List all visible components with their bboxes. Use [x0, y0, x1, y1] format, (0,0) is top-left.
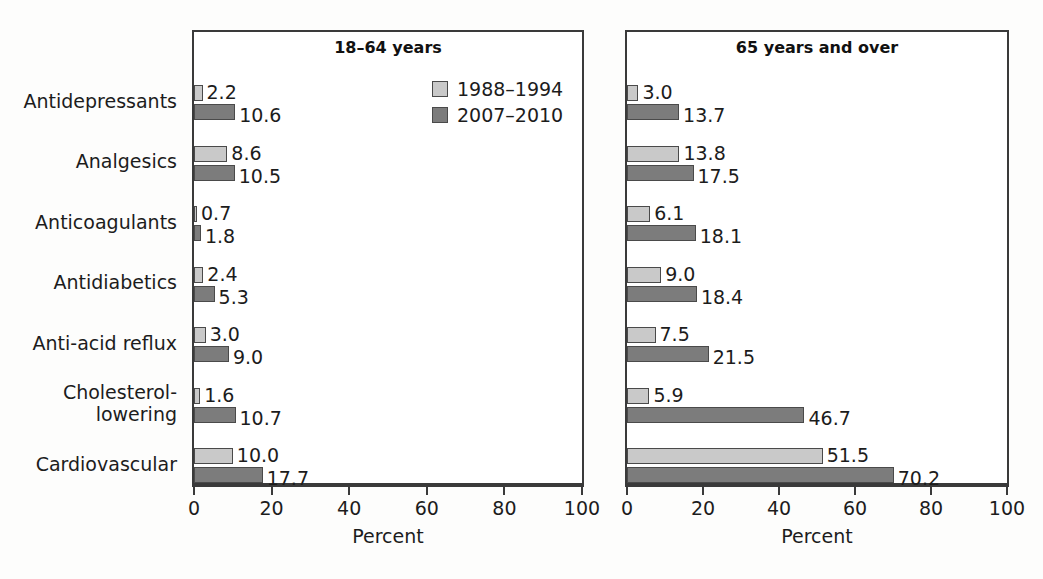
bar-value-label: 13.7: [683, 106, 725, 125]
legend-item: 1988–1994: [432, 76, 563, 102]
bar-value-label: 9.0: [233, 348, 263, 367]
bar-2007-2010: [194, 165, 235, 181]
bar-value-label: 3.0: [642, 83, 672, 102]
axis-tick-label: 80: [492, 498, 516, 518]
axis-title: Percent: [192, 525, 584, 547]
bar-value-label: 21.5: [713, 348, 755, 367]
axis-tick: [581, 485, 583, 495]
category-label: Anticoagulants: [35, 211, 177, 233]
bar-value-label: 13.8: [683, 144, 725, 163]
bar-2007-2010: [627, 165, 694, 181]
bar-value-label: 6.1: [654, 204, 684, 223]
category-label: Antidepressants: [24, 90, 178, 112]
bar-value-label: 8.6: [231, 144, 261, 163]
axis-tick-label: 40: [767, 498, 791, 518]
bar-value-label: 18.4: [701, 288, 743, 307]
axis-tick: [930, 485, 932, 495]
category-label: Analgesics: [76, 150, 177, 172]
dark-gray-swatch-icon: [432, 107, 448, 123]
bar-1988-1994: [627, 206, 650, 222]
bar-2007-2010: [194, 346, 229, 362]
bar-1988-1994: [627, 85, 638, 101]
bar-value-label: 7.5: [660, 325, 690, 344]
bar-value-label: 3.0: [210, 325, 240, 344]
bar-value-label: 2.4: [207, 265, 237, 284]
bar-1988-1994: [194, 206, 197, 222]
bar-value-label: 5.9: [653, 386, 683, 405]
bar-2007-2010: [627, 104, 679, 120]
bar-value-label: 10.5: [239, 167, 281, 186]
axis-line: [192, 485, 584, 487]
panel-65-years-and-over: 65 years and over 3.013.86.19.07.55.951.…: [625, 30, 1009, 485]
bar-2007-2010: [194, 286, 215, 302]
bar-2007-2010: [194, 225, 201, 241]
axis-tick: [193, 485, 195, 495]
plot-area-right: 3.013.86.19.07.55.951.513.717.518.118.42…: [627, 32, 1007, 483]
bar-1988-1994: [627, 327, 656, 343]
bar-value-label: 9.0: [665, 265, 695, 284]
chart-legend: 1988–19942007–2010: [432, 76, 563, 128]
chart-figure: AntidepressantsAnalgesicsAnticoagulantsA…: [0, 0, 1043, 579]
x-axis-right: 020406080100Percent: [625, 485, 1009, 531]
x-axis-left: 020406080100Percent: [192, 485, 584, 531]
bar-1988-1994: [194, 388, 200, 404]
category-axis-labels: AntidepressantsAnalgesicsAnticoagulantsA…: [0, 30, 185, 485]
panel-18-64-years: 18–64 years 2.28.60.72.43.01.610.010.610…: [192, 30, 584, 485]
bar-value-label: 51.5: [827, 446, 869, 465]
bar-2007-2010: [627, 346, 709, 362]
axis-tick: [702, 485, 704, 495]
bar-value-label: 18.1: [700, 227, 742, 246]
bar-1988-1994: [627, 267, 661, 283]
bar-1988-1994: [627, 146, 679, 162]
bar-value-label: 10.6: [239, 106, 281, 125]
bar-1988-1994: [194, 327, 206, 343]
category-label: Cholesterol- lowering: [63, 381, 177, 425]
axis-tick: [626, 485, 628, 495]
axis-tick: [426, 485, 428, 495]
bar-1988-1994: [627, 388, 649, 404]
bar-2007-2010: [627, 225, 696, 241]
axis-tick-label: 100: [989, 498, 1025, 518]
legend-label: 1988–1994: [457, 80, 563, 99]
axis-tick-label: 60: [843, 498, 867, 518]
bar-1988-1994: [194, 146, 227, 162]
bar-1988-1994: [627, 448, 823, 464]
axis-tick-label: 40: [337, 498, 361, 518]
bar-2007-2010: [194, 467, 263, 483]
bar-value-label: 2.2: [207, 83, 237, 102]
bar-1988-1994: [194, 448, 233, 464]
bar-value-label: 1.6: [204, 386, 234, 405]
bar-value-label: 10.0: [237, 446, 279, 465]
light-gray-swatch-icon: [432, 81, 448, 97]
bar-2007-2010: [627, 286, 697, 302]
axis-tick: [348, 485, 350, 495]
bar-2007-2010: [627, 407, 804, 423]
bar-2007-2010: [627, 467, 894, 483]
legend-item: 2007–2010: [432, 102, 563, 128]
axis-tick: [778, 485, 780, 495]
axis-tick-label: 20: [691, 498, 715, 518]
bar-2007-2010: [194, 104, 235, 120]
bar-value-label: 46.7: [808, 409, 850, 428]
bar-value-label: 1.8: [205, 227, 235, 246]
axis-tick: [271, 485, 273, 495]
axis-tick-label: 0: [621, 498, 633, 518]
legend-label: 2007–2010: [457, 106, 563, 125]
axis-tick: [503, 485, 505, 495]
axis-line: [625, 485, 1009, 487]
bar-1988-1994: [194, 267, 203, 283]
axis-tick-label: 0: [188, 498, 200, 518]
category-label: Antidiabetics: [53, 271, 177, 293]
axis-title: Percent: [625, 525, 1009, 547]
axis-tick-label: 60: [415, 498, 439, 518]
bar-2007-2010: [194, 407, 236, 423]
bar-value-label: 5.3: [219, 288, 249, 307]
axis-tick: [854, 485, 856, 495]
bar-value-label: 17.5: [698, 167, 740, 186]
category-label: Anti-acid reflux: [33, 332, 177, 354]
axis-tick: [1006, 485, 1008, 495]
axis-tick-label: 100: [564, 498, 600, 518]
axis-tick-label: 80: [919, 498, 943, 518]
bar-value-label: 0.7: [201, 204, 231, 223]
bar-1988-1994: [194, 85, 203, 101]
